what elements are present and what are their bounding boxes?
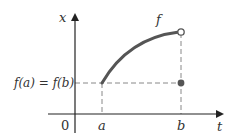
- horizontal-axis-label: t: [217, 119, 223, 134]
- diagram-canvas: x t 0 f a b f(a) = f(b): [0, 0, 237, 140]
- curve-label: f: [155, 12, 163, 27]
- filled-endpoint-dot: [178, 80, 185, 87]
- origin-label: 0: [61, 118, 69, 133]
- open-endpoint-circle: [178, 29, 184, 35]
- tick-label-a: a: [98, 118, 106, 133]
- curve-f: [102, 32, 179, 83]
- guide-lines: [75, 33, 181, 114]
- vertical-axis-label: x: [59, 10, 67, 25]
- tick-label-b: b: [177, 118, 185, 133]
- level-label: f(a) = f(b): [13, 76, 74, 90]
